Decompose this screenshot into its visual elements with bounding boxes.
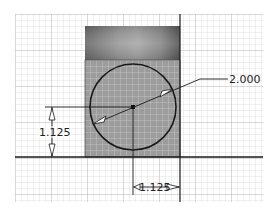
vertical-offset-label[interactable]: 1.125 [39,126,71,139]
extrusion-band-shade [85,26,180,60]
sketch-canvas: 2.000 1.125 1.125 [0,0,278,210]
horizontal-offset-label[interactable]: 1.125 [139,181,171,194]
diameter-label[interactable]: 2.000 [229,73,261,86]
